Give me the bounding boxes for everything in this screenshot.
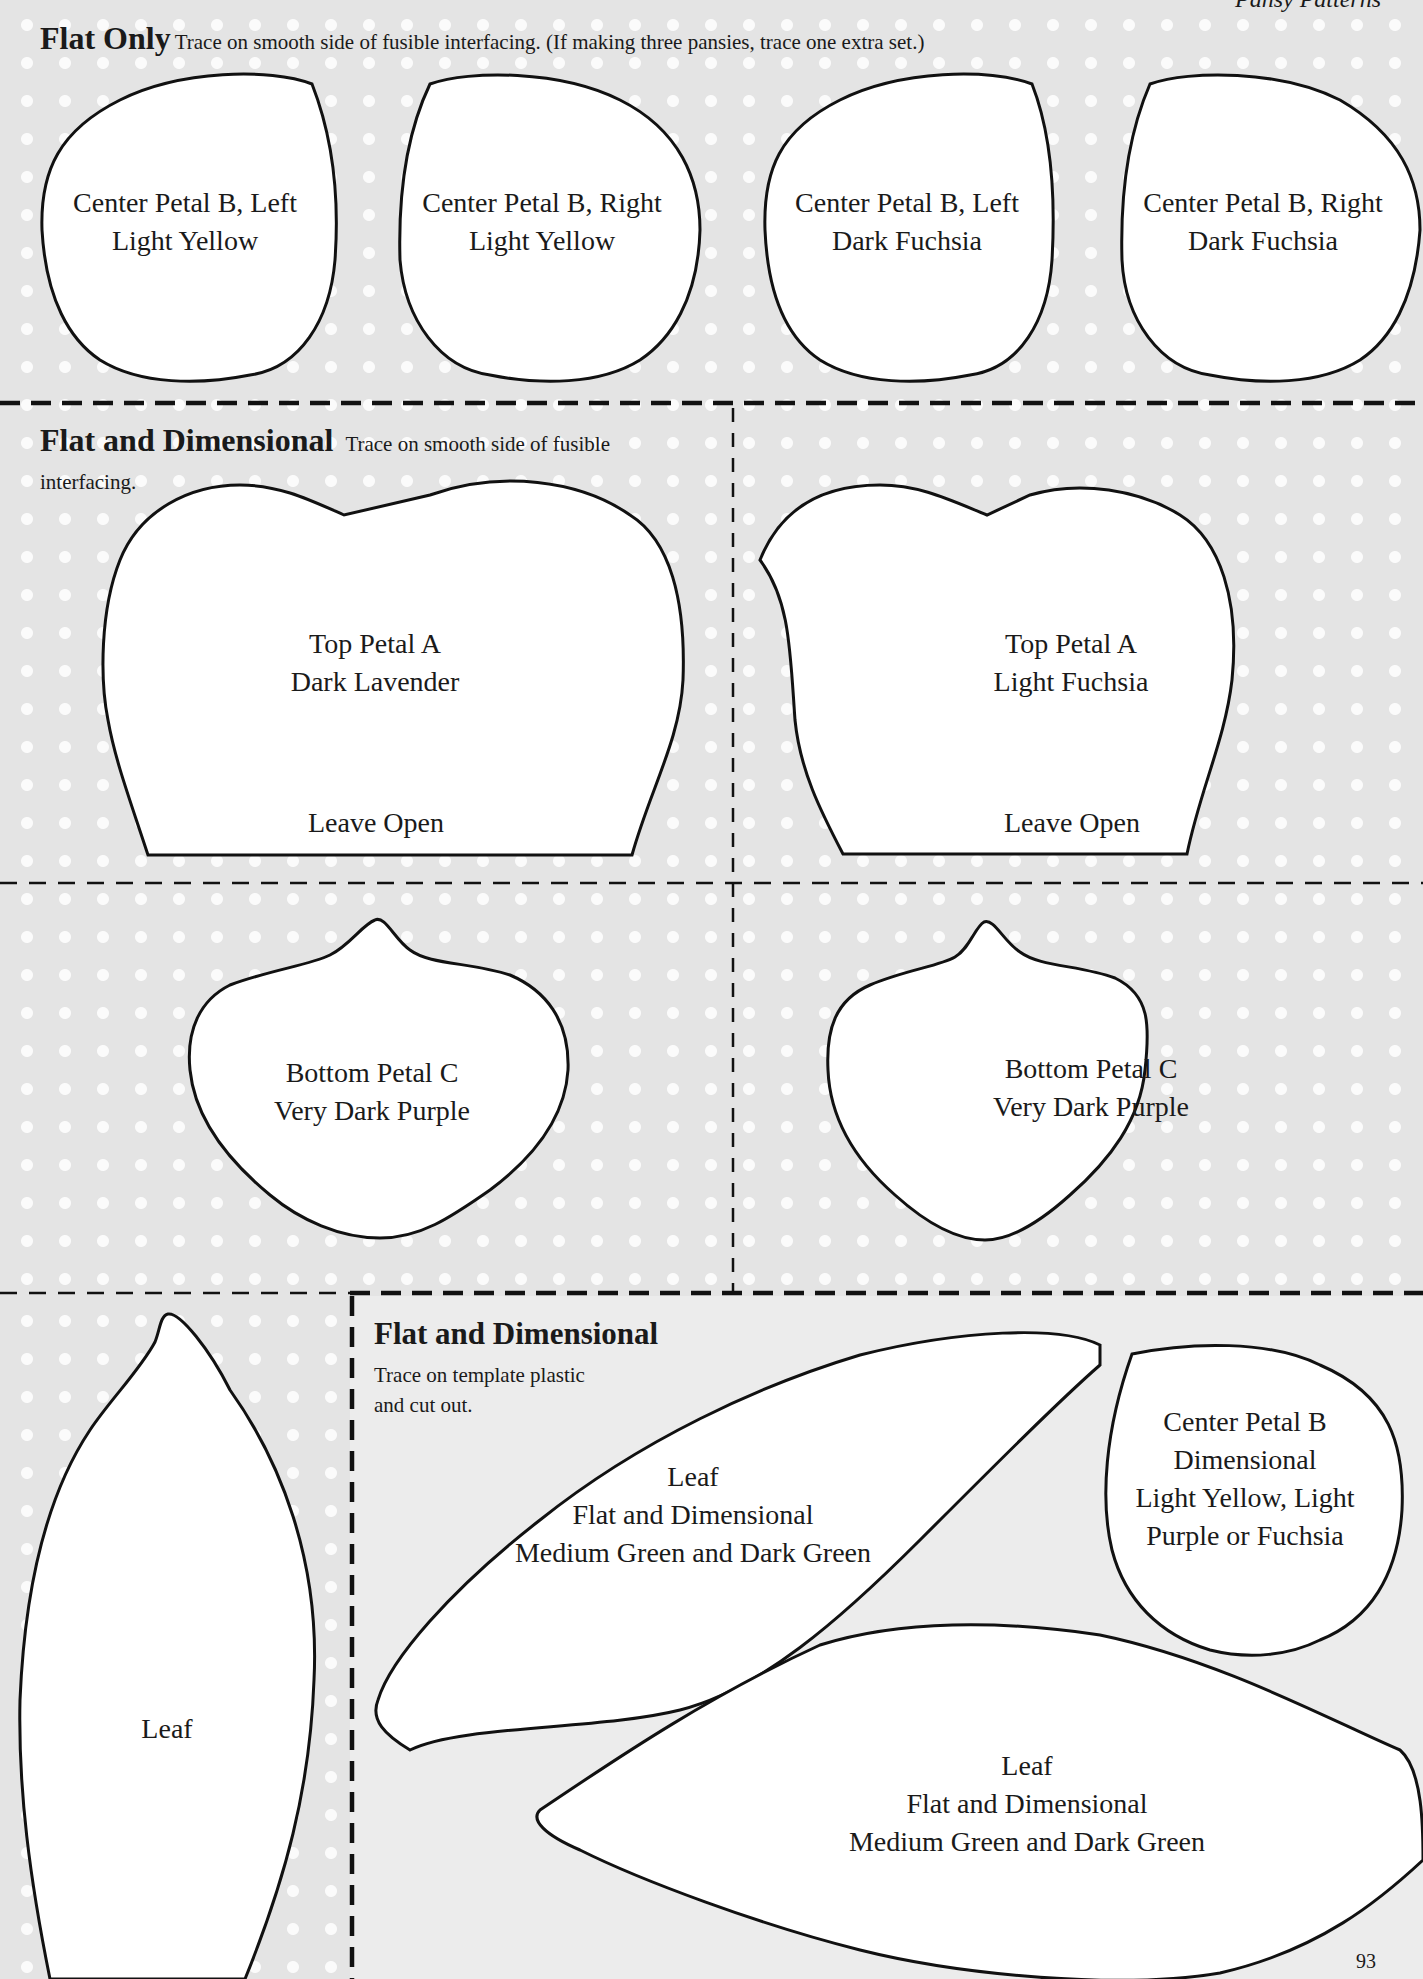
running-header: Pansy Patterns — [1235, 0, 1381, 13]
center-petal-label: Center Petal B, Left Dark Fuchsia — [795, 184, 1019, 260]
top-petal-label: Top Petal A Dark Lavender — [291, 625, 460, 701]
flat-and-dimensional-heading: Flat and Dimensional Trace on smooth sid… — [40, 422, 610, 459]
template-plastic-title: Flat and Dimensional — [374, 1316, 658, 1352]
flat-and-dimensional-note: Trace on smooth side of fusible — [345, 432, 610, 456]
flat-only-heading: Flat Only Trace on smooth side of fusibl… — [40, 20, 924, 57]
flat-only-title: Flat Only — [40, 20, 171, 56]
leaf-template-lower-label: Leaf Flat and Dimensional Medium Green a… — [849, 1747, 1205, 1861]
center-petal-label: Center Petal B, Right Dark Fuchsia — [1143, 184, 1383, 260]
center-petal-b-dimensional-label: Center Petal B Dimensional Light Yellow,… — [1135, 1403, 1354, 1555]
center-petal-label: Center Petal B, Left Light Yellow — [73, 184, 297, 260]
leave-open-label: Leave Open — [308, 804, 444, 842]
flat-and-dimensional-title: Flat and Dimensional — [40, 422, 333, 458]
left-leaf-label: Leaf — [141, 1710, 192, 1748]
leave-open-label: Leave Open — [1004, 804, 1140, 842]
page-number: 93 — [1356, 1950, 1376, 1973]
flat-and-dimensional-note-continued: interfacing. — [40, 470, 136, 495]
template-plastic-note: Trace on template plastic and cut out. — [374, 1360, 585, 1420]
bottom-petal-label: Bottom Petal C Very Dark Purple — [274, 1054, 470, 1130]
bottom-petal-label: Bottom Petal C Very Dark Purple — [993, 1050, 1189, 1126]
top-petal-label: Top Petal A Light Fuchsia — [994, 625, 1149, 701]
center-petal-label: Center Petal B, Right Light Yellow — [422, 184, 662, 260]
leaf-template-upper-label: Leaf Flat and Dimensional Medium Green a… — [515, 1458, 871, 1572]
flat-only-note: Trace on smooth side of fusible interfac… — [175, 30, 925, 54]
